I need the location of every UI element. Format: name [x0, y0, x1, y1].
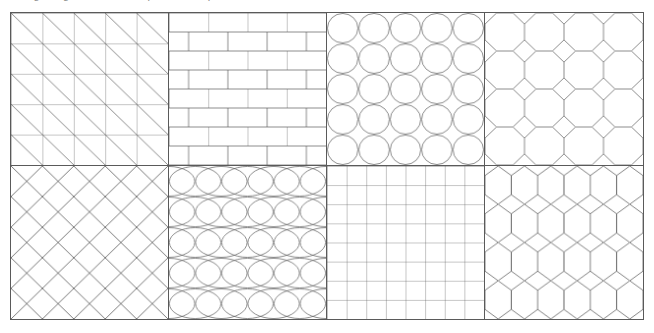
pattern-swatch-board — [10, 12, 644, 320]
diagonal-triangle-grid-icon — [11, 13, 168, 165]
caption-strip: Figure: geometric hatch pattern samples — [0, 0, 654, 11]
swatch-square-mesh-grid[interactable] — [327, 166, 485, 319]
square-mesh-grid-icon — [327, 166, 484, 319]
hexagonal-honeycomb-icon — [485, 166, 643, 319]
tangent-circle-grid-icon — [327, 13, 484, 165]
swatch-ellipse-grid[interactable] — [169, 166, 327, 319]
running-bond-brick-icon — [169, 13, 326, 165]
ellipse-grid-icon — [169, 166, 326, 319]
swatch-octagon-square-tessellation[interactable] — [485, 13, 643, 166]
octagon-square-tessellation-icon — [485, 13, 643, 165]
swatch-hexagonal-honeycomb[interactable] — [485, 166, 643, 319]
swatch-tangent-circle-grid[interactable] — [327, 13, 485, 166]
swatch-diagonal-triangle-grid[interactable] — [11, 13, 169, 166]
diamond-lattice-crosshatch-icon — [11, 166, 168, 319]
swatch-running-bond-brick[interactable] — [169, 13, 327, 166]
caption-text: Figure: geometric hatch pattern samples — [24, 0, 229, 1]
swatch-diamond-lattice-crosshatch[interactable] — [11, 166, 169, 319]
